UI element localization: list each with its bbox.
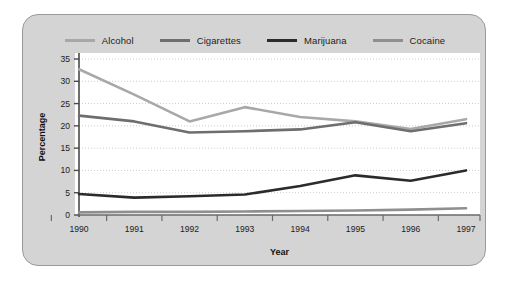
x-tick-labels: 19901991199219931994199519961997 [69,224,475,234]
y-tick-label: 35 [60,54,70,64]
y-axis-title: Percentage [37,113,47,162]
x-tick-label: 1993 [235,224,254,234]
x-tick-label: 1995 [346,224,365,234]
chart-panel: Alcohol Cigarettes Marijuana Cocaine [22,14,486,266]
y-tick-label: 20 [60,121,70,131]
x-tick-label: 1991 [125,224,144,234]
x-axis-title: Year [270,247,290,257]
x-axis [51,215,480,221]
plot-area: 05101520253035 1990199119921993199419951… [23,15,487,267]
x-tick-label: 1996 [401,224,420,234]
x-tick-label: 1997 [456,224,475,234]
y-tick-label: 30 [60,76,70,86]
x-tick-label: 1990 [69,224,88,234]
x-tick-label: 1992 [180,224,199,234]
y-tick-labels: 05101520253035 [60,54,70,220]
x-tick-label: 1994 [291,224,310,234]
line-chart-svg: 05101520253035 1990199119921993199419951… [23,15,487,267]
y-tick-label: 0 [65,210,70,220]
y-tick-label: 25 [60,99,70,109]
y-tick-label: 5 [65,188,70,198]
y-tick-label: 15 [60,143,70,153]
y-tick-label: 10 [60,165,70,175]
figure-root: Alcohol Cigarettes Marijuana Cocaine [0,0,516,285]
